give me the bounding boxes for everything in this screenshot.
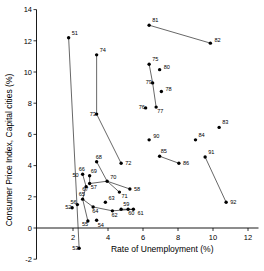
scatter-chart: -20246810121424681012 515253545556575859… xyxy=(0,0,264,271)
data-point-label: 81 xyxy=(152,17,158,23)
x-tick-label: 6 xyxy=(141,233,145,242)
data-point-marker xyxy=(119,208,122,211)
x-tick-label: 2 xyxy=(71,233,75,242)
y-tick-label: 10 xyxy=(24,68,32,77)
data-point-label: 51 xyxy=(72,30,78,36)
data-point-label: 57 xyxy=(91,184,97,190)
data-point-marker xyxy=(95,160,98,163)
data-point-marker xyxy=(95,53,98,56)
data-point-marker xyxy=(224,201,227,204)
connector-line xyxy=(97,55,122,163)
y-tick-label: 4 xyxy=(28,161,32,170)
connector-line xyxy=(69,38,80,249)
data-point-label: 80 xyxy=(164,64,170,70)
data-point-label: 53 xyxy=(72,245,78,251)
data-point-marker xyxy=(158,155,161,158)
data-point-marker xyxy=(81,172,84,175)
data-point-marker xyxy=(147,62,150,65)
data-point-label: 50 xyxy=(73,172,79,178)
data-point-label: 73 xyxy=(90,111,96,117)
data-point-label: 92 xyxy=(230,199,236,205)
data-point-label: 78 xyxy=(165,86,171,92)
data-point-label: 64 xyxy=(92,208,98,214)
data-point-marker xyxy=(128,187,131,190)
data-point-label: 55 xyxy=(82,221,88,227)
data-point-marker xyxy=(203,155,206,158)
data-point-label: 83 xyxy=(222,119,228,125)
chart-canvas: -20246810121424681012 515253545556575859… xyxy=(0,0,264,271)
data-point-marker xyxy=(158,68,161,71)
data-point-label: 75 xyxy=(152,56,158,62)
data-point-marker xyxy=(209,41,212,44)
data-point-label: 70 xyxy=(110,174,116,180)
data-point-marker xyxy=(194,138,197,141)
data-point-marker xyxy=(177,162,180,165)
data-point-label: 58 xyxy=(134,186,140,192)
data-point-label: 84 xyxy=(199,132,205,138)
data-point-label: 54 xyxy=(98,222,104,228)
y-axis-title: Consumer Price Index, Capital cities (%) xyxy=(4,74,14,227)
data-point-marker xyxy=(147,24,150,27)
data-point-label: 65 xyxy=(79,191,85,197)
x-tick-label: 8 xyxy=(176,233,180,242)
data-point-label: 68 xyxy=(96,154,102,160)
data-point-marker xyxy=(67,36,70,39)
data-point-label: 61 xyxy=(137,210,143,216)
y-tick-label: 6 xyxy=(28,130,32,139)
data-point-label: 91 xyxy=(208,149,214,155)
data-point-label: 60 xyxy=(128,210,134,216)
connector-line xyxy=(149,25,210,43)
data-point-label: 74 xyxy=(100,47,106,53)
data-point-label: 52 xyxy=(65,204,71,210)
y-tick-label: 12 xyxy=(24,37,32,46)
data-point-marker xyxy=(147,138,150,141)
data-point-label: 69 xyxy=(91,168,97,174)
y-tick-label: -2 xyxy=(25,255,32,264)
axes-group: -20246810121424681012 xyxy=(24,5,259,264)
data-point-label: 63 xyxy=(108,195,114,201)
connector-line xyxy=(205,157,226,202)
y-tick-label: 14 xyxy=(24,5,32,14)
data-point-marker xyxy=(81,197,84,200)
data-point-label: 71 xyxy=(121,193,127,199)
data-point-label: 82 xyxy=(214,37,220,43)
data-point-label: 85 xyxy=(161,148,167,154)
data-point-marker xyxy=(160,90,163,93)
data-point-label: 67 xyxy=(82,186,88,192)
y-tick-label: 8 xyxy=(28,99,32,108)
data-point-label: 56 xyxy=(70,199,76,205)
data-point-marker xyxy=(119,162,122,165)
data-point-marker xyxy=(105,180,108,183)
data-point-label: 76 xyxy=(139,104,145,110)
x-tick-label: 4 xyxy=(106,233,110,242)
y-tick-label: 0 xyxy=(28,224,32,233)
data-points-group: 5152535455565758596061626364656667686970… xyxy=(65,17,236,251)
data-point-marker xyxy=(132,208,135,211)
y-tick-label: 2 xyxy=(28,193,32,202)
data-point-label: 72 xyxy=(125,160,131,166)
data-point-marker xyxy=(88,174,91,177)
x-axis-title: Rate of Unemployment (%) xyxy=(111,244,214,254)
data-point-marker xyxy=(217,126,220,129)
data-point-label: 66 xyxy=(79,166,85,172)
connector-line xyxy=(83,174,88,221)
connector-line xyxy=(149,64,156,107)
data-point-label: 79 xyxy=(146,79,152,85)
data-point-label: 86 xyxy=(183,160,189,166)
data-point-marker xyxy=(104,201,107,204)
x-tick-label: 12 xyxy=(244,233,252,242)
connector-line xyxy=(160,156,179,163)
data-point-label: 59 xyxy=(123,201,129,207)
data-point-label: 77 xyxy=(157,108,163,114)
x-tick-label: 10 xyxy=(209,233,217,242)
data-point-label: 62 xyxy=(111,212,117,218)
data-point-label: 90 xyxy=(153,133,159,139)
